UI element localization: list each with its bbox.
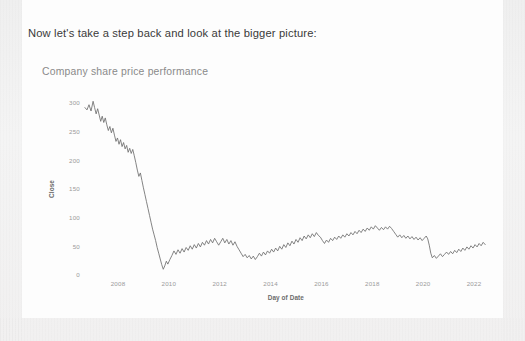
page-margin-left	[0, 0, 22, 341]
slide-card	[22, 0, 503, 318]
chart-title: Company share price performance	[42, 66, 208, 77]
page-margin-bottom	[0, 318, 525, 341]
slide-heading: Now let's take a step back and look at t…	[28, 27, 317, 39]
page-margin-right	[503, 0, 525, 341]
